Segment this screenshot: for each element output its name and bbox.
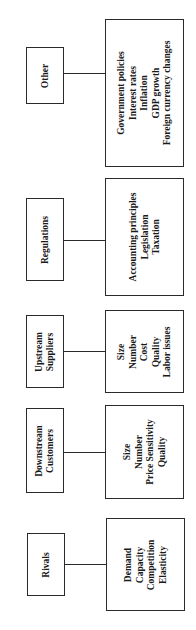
details-list: Demand Capacity Competition Elasticity: [123, 539, 169, 590]
category-box-other: Other: [26, 47, 64, 104]
details-box-regulations: Accounting principles Legislation Taxati…: [105, 178, 184, 296]
details-box-other: Government policies Interest rates Infla…: [105, 19, 184, 167]
connector-line: [63, 452, 106, 453]
category-box-rivals: Rivals: [27, 533, 65, 596]
category-box-regulations: Regulations: [26, 198, 64, 281]
connector-line: [63, 73, 106, 74]
category-box-downstream-customers: Downstream Customers: [26, 408, 64, 493]
details-list: Government policies Interest rates Infla…: [116, 41, 174, 146]
details-list: Size Number Cost Quality Labor issues: [116, 326, 174, 377]
category-label: Upstream Suppliers: [34, 332, 56, 372]
details-box-rivals: Demand Capacity Competition Elasticity: [106, 518, 185, 611]
details-list: Accounting principles Legislation Taxati…: [127, 193, 162, 282]
category-label: Downstream Customers: [34, 425, 56, 477]
category-box-upstream-suppliers: Upstream Suppliers: [26, 315, 64, 388]
connector-line: [63, 240, 106, 241]
connector-line: [64, 564, 107, 565]
category-label: Regulations: [40, 215, 51, 263]
details-box-upstream-suppliers: Size Number Cost Quality Labor issues: [105, 310, 184, 393]
category-label: Other: [40, 63, 51, 87]
category-label: Rivals: [41, 552, 52, 577]
connector-line: [63, 351, 106, 352]
details-box-downstream-customers: Size Number Price Sensitivity Quality: [105, 405, 184, 499]
details-list: Size Number Price Sensitivity Quality: [122, 419, 168, 485]
